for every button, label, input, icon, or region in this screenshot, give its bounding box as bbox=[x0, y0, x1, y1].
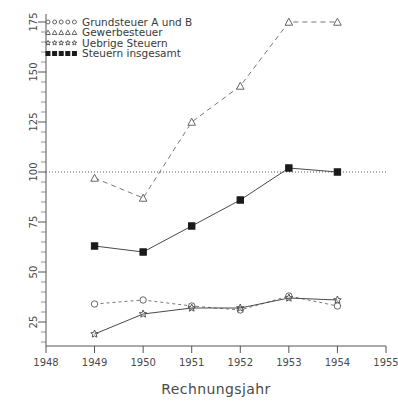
x-tick-label: 1949 bbox=[82, 357, 107, 368]
y-tick-label: 25 bbox=[28, 316, 39, 329]
marker-circle bbox=[334, 303, 340, 309]
series-line bbox=[95, 168, 338, 252]
series-2 bbox=[91, 294, 341, 337]
x-axis-tick-labels: 19481949195019511952195319541955 bbox=[33, 357, 398, 368]
marker-triangle bbox=[139, 194, 147, 201]
marker-triangle bbox=[65, 30, 70, 34]
marker-circle bbox=[46, 20, 50, 24]
marker-triangle bbox=[59, 30, 64, 34]
marker-triangle bbox=[91, 174, 99, 181]
marker-square bbox=[66, 52, 70, 56]
marker-square bbox=[286, 165, 292, 171]
marker-triangle bbox=[236, 82, 244, 89]
y-tick-label: 175 bbox=[28, 12, 39, 31]
marker-triangle bbox=[188, 118, 196, 125]
marker-star bbox=[72, 41, 77, 46]
series-line bbox=[95, 298, 338, 334]
x-axis-ticks bbox=[46, 346, 386, 353]
x-tick-label: 1955 bbox=[373, 357, 398, 368]
y-axis-tick-labels: 255075100125150175 bbox=[28, 12, 39, 328]
marker-circle bbox=[140, 297, 146, 303]
marker-square bbox=[53, 52, 57, 56]
series-3 bbox=[91, 165, 340, 255]
marker-triangle bbox=[72, 30, 77, 34]
y-tick-label: 100 bbox=[28, 162, 39, 181]
y-tick-label: 75 bbox=[28, 216, 39, 229]
x-tick-label: 1954 bbox=[325, 357, 350, 368]
marker-triangle bbox=[285, 18, 293, 25]
marker-square bbox=[91, 243, 97, 249]
marker-triangle bbox=[334, 18, 342, 25]
x-tick-label: 1953 bbox=[276, 357, 301, 368]
marker-square bbox=[140, 249, 146, 255]
x-tick-label: 1952 bbox=[228, 357, 253, 368]
marker-square bbox=[72, 52, 76, 56]
x-tick-label: 1950 bbox=[130, 357, 155, 368]
chart-container: 255075100125150175 194819491950195119521… bbox=[0, 0, 398, 409]
marker-square bbox=[237, 197, 243, 203]
y-tick-label: 150 bbox=[28, 62, 39, 81]
y-tick-label: 125 bbox=[28, 112, 39, 131]
series-layer bbox=[91, 18, 341, 337]
x-axis-title: Rechnungsjahr bbox=[161, 381, 270, 397]
marker-square bbox=[334, 169, 340, 175]
chart-legend: Grundsteuer A und BGewerbesteuerUebrige … bbox=[46, 16, 193, 60]
marker-square bbox=[189, 223, 195, 229]
x-tick-label: 1951 bbox=[179, 357, 204, 368]
marker-circle bbox=[59, 20, 63, 24]
marker-square bbox=[59, 52, 63, 56]
marker-star bbox=[52, 41, 57, 46]
marker-circle bbox=[66, 20, 70, 24]
y-tick-label: 50 bbox=[28, 266, 39, 279]
legend-item-3: Steuern insgesamt bbox=[46, 47, 181, 59]
series-0 bbox=[91, 293, 340, 313]
marker-circle bbox=[91, 301, 97, 307]
marker-star bbox=[59, 41, 64, 46]
chart-svg: 255075100125150175 194819491950195119521… bbox=[0, 0, 398, 409]
y-axis-ticks bbox=[38, 22, 46, 342]
legend-label: Steuern insgesamt bbox=[82, 47, 181, 59]
x-tick-label: 1948 bbox=[33, 357, 58, 368]
marker-triangle bbox=[52, 30, 57, 34]
marker-circle bbox=[72, 20, 76, 24]
marker-square bbox=[46, 52, 50, 56]
marker-star bbox=[65, 41, 70, 46]
marker-circle bbox=[53, 20, 57, 24]
